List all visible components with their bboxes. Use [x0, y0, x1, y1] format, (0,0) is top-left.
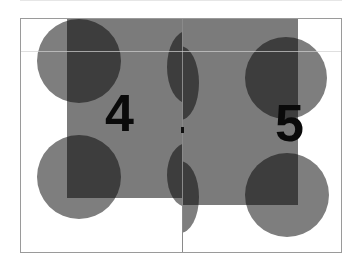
page-left: 4	[21, 19, 183, 252]
circle-bottom-right	[245, 153, 329, 237]
page-right: 5	[183, 19, 341, 252]
top-rule	[20, 0, 342, 1]
page-number-5: 5	[275, 97, 304, 149]
seam-marker	[181, 127, 184, 133]
page-number-4: 4	[105, 87, 134, 139]
two-page-spread: 4 5	[20, 18, 342, 253]
horizontal-guide-line	[21, 51, 341, 52]
circle-bottom-left	[37, 135, 121, 219]
page-seam	[182, 19, 183, 252]
